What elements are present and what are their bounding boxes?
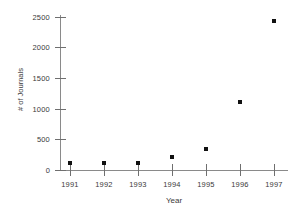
data-point <box>136 161 140 165</box>
data-point <box>238 100 242 104</box>
x-axis-tick-1994 <box>172 164 173 176</box>
y-axis-tick-500 <box>55 139 66 140</box>
x-axis-tick-1995 <box>206 164 207 176</box>
plot-area: 0 500 1000 1500 2000 2500 1991 1992 1993… <box>0 0 296 216</box>
y-axis-title: # of Journals <box>16 40 25 140</box>
data-point <box>102 161 106 165</box>
x-axis-tick-1993 <box>138 164 139 176</box>
data-point <box>170 155 174 159</box>
scatter-chart-figure: 0 500 1000 1500 2000 2500 1991 1992 1993… <box>0 0 296 216</box>
data-point <box>204 147 208 151</box>
x-axis-title: Year <box>60 196 288 205</box>
x-axis-tick-1991 <box>70 164 71 176</box>
y-axis-tick-2500 <box>55 17 66 18</box>
y-axis-tick-1500 <box>55 78 66 79</box>
y-axis-tick-2000 <box>55 47 66 48</box>
y-axis-tick-0 <box>55 170 66 171</box>
y-axis-line <box>60 15 61 171</box>
x-axis-tick-1992 <box>104 164 105 176</box>
x-axis-tick-1996 <box>240 164 241 176</box>
y-axis-tick-label-0: 0 <box>14 166 50 175</box>
y-axis-tick-label-2500: 2500 <box>14 13 50 22</box>
x-axis-line <box>60 170 288 171</box>
x-axis-tick-label-1997: 1997 <box>254 180 294 189</box>
data-point <box>272 19 276 23</box>
x-axis-tick-1997 <box>274 164 275 176</box>
y-axis-tick-1000 <box>55 109 66 110</box>
data-point <box>68 161 72 165</box>
